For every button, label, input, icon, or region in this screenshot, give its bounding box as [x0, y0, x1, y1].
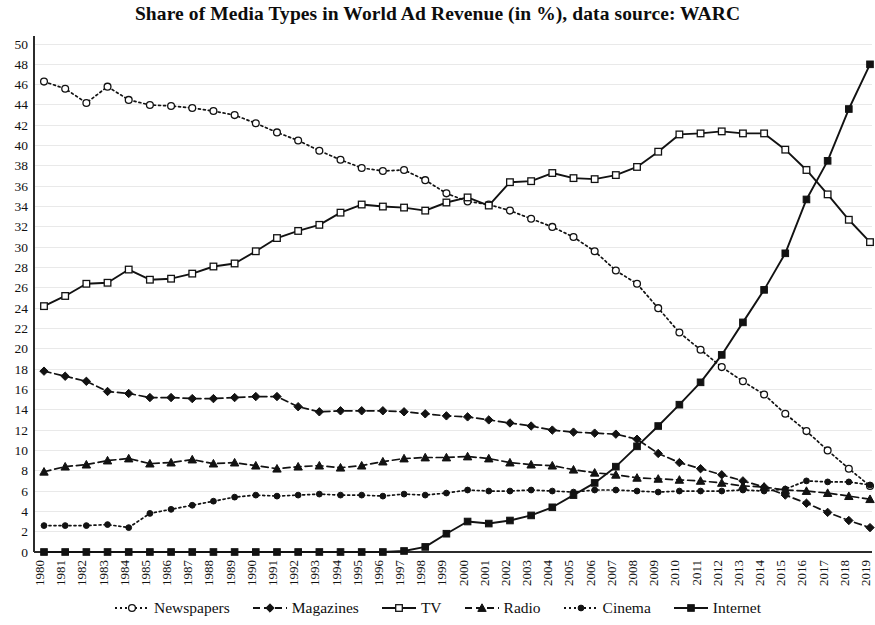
- data-point-marker: [295, 549, 302, 556]
- data-point-marker: [634, 280, 641, 287]
- legend-item-radio[interactable]: Radio: [464, 600, 541, 616]
- data-point-marker: [167, 393, 175, 401]
- data-point-marker: [761, 130, 768, 137]
- data-point-marker: [867, 239, 874, 246]
- data-point-marker: [316, 549, 323, 556]
- data-point-marker: [295, 137, 302, 144]
- legend-marker-solid-diamond-icon: [252, 601, 288, 615]
- chart-legend: NewspapersMagazinesTVRadioCinemaInternet: [0, 600, 875, 616]
- data-point-marker: [83, 280, 90, 287]
- legend-item-cinema[interactable]: Cinema: [563, 600, 651, 616]
- data-point-marker: [125, 389, 133, 397]
- y-tick-label: 22: [15, 321, 29, 336]
- legend-marker-solid-circle-icon: [563, 601, 599, 615]
- data-point-marker: [697, 346, 704, 353]
- data-point-marker: [358, 201, 365, 208]
- data-point-marker: [804, 478, 810, 484]
- data-point-marker: [634, 443, 641, 450]
- data-point-marker: [295, 492, 301, 498]
- x-tick-label: 1983: [96, 560, 111, 586]
- data-point-marker: [231, 549, 238, 556]
- x-tick-label: 2012: [710, 560, 725, 586]
- data-point-marker: [655, 489, 661, 495]
- data-point-marker: [230, 393, 238, 401]
- x-tick-label: 1988: [201, 560, 216, 586]
- data-point-marker: [274, 549, 281, 556]
- data-point-marker: [528, 215, 535, 222]
- chart-figure: Share of Media Types in World Ad Revenue…: [0, 0, 875, 625]
- data-point-marker: [528, 487, 534, 493]
- legend-item-internet[interactable]: Internet: [673, 600, 761, 616]
- data-point-marker: [274, 129, 281, 136]
- data-point-marker: [62, 85, 69, 92]
- data-point-marker: [697, 130, 704, 137]
- x-tick-label: 2007: [604, 560, 619, 587]
- data-point-marker: [782, 146, 789, 153]
- legend-item-magazines[interactable]: Magazines: [252, 600, 359, 616]
- data-point-marker: [549, 504, 556, 511]
- data-point-marker: [613, 487, 619, 493]
- data-point-marker: [189, 270, 196, 277]
- data-point-marker: [570, 492, 577, 499]
- data-point-marker: [464, 194, 471, 201]
- data-point-marker: [379, 407, 387, 415]
- data-point-marker: [549, 488, 555, 494]
- data-point-marker: [696, 464, 704, 472]
- data-point-marker: [316, 147, 323, 154]
- data-point-marker: [168, 275, 175, 282]
- data-point-marker: [125, 96, 132, 103]
- data-point-marker: [41, 78, 48, 85]
- x-tick-label: 1997: [392, 560, 407, 587]
- data-point-marker: [718, 128, 725, 135]
- data-point-marker: [740, 378, 747, 385]
- legend-item-newspapers[interactable]: Newspapers: [114, 600, 230, 616]
- data-point-marker: [718, 364, 725, 371]
- data-point-marker: [740, 130, 747, 137]
- data-point-marker: [824, 447, 831, 454]
- data-point-marker: [846, 106, 853, 113]
- data-point-marker: [295, 228, 302, 235]
- data-point-marker: [337, 209, 344, 216]
- x-tick-label: 2008: [625, 560, 640, 586]
- legend-label: Cinema: [603, 600, 651, 616]
- data-point-marker: [103, 387, 111, 395]
- data-point-marker: [359, 492, 365, 498]
- y-tick-label: 10: [15, 443, 29, 458]
- data-point-marker: [188, 394, 196, 402]
- data-point-marker: [380, 203, 387, 210]
- data-point-marker: [338, 492, 344, 498]
- x-tick-label: 2009: [646, 560, 661, 586]
- legend-marker-solid-triangle-icon: [464, 601, 500, 615]
- data-point-marker: [655, 305, 662, 312]
- series-radio: [40, 452, 874, 502]
- data-point-marker: [634, 164, 641, 171]
- data-point-marker: [422, 492, 428, 498]
- data-point-marker: [718, 352, 725, 359]
- x-tick-label: 2010: [667, 560, 682, 586]
- data-point-marker: [316, 222, 323, 229]
- data-point-marker: [507, 488, 513, 494]
- data-point-marker: [422, 177, 429, 184]
- legend-marker-solid-square-icon: [673, 601, 709, 615]
- data-point-marker: [802, 499, 810, 507]
- series-tv: [41, 128, 874, 309]
- data-point-marker: [676, 488, 682, 494]
- data-point-marker: [676, 131, 683, 138]
- data-point-marker: [823, 508, 831, 516]
- data-point-marker: [189, 105, 196, 112]
- data-point-marker: [273, 392, 281, 400]
- data-point-marker: [252, 392, 260, 400]
- data-point-marker: [401, 491, 407, 497]
- legend-item-tv[interactable]: TV: [381, 600, 442, 616]
- data-point-marker: [507, 179, 514, 186]
- data-point-marker: [697, 379, 704, 386]
- data-point-marker: [232, 494, 238, 500]
- chart-title: Share of Media Types in World Ad Revenue…: [0, 3, 875, 25]
- series-line: [44, 457, 870, 500]
- data-point-marker: [655, 148, 662, 155]
- data-point-marker: [824, 158, 831, 165]
- y-tick-label: 14: [15, 402, 29, 417]
- y-tick-label: 40: [15, 138, 29, 153]
- legend-label: TV: [421, 600, 442, 616]
- x-tick-label: 2000: [456, 560, 471, 586]
